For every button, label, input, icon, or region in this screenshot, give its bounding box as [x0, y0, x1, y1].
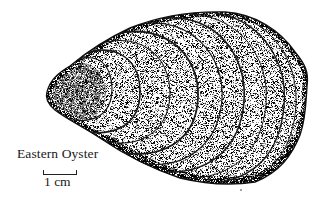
figure-caption: Eastern Oyster [17, 146, 98, 162]
scale-bar-label: 1 cm [44, 174, 71, 190]
scale-bar-tick-right [76, 170, 77, 175]
figure-canvas: Eastern Oyster 1 cm [0, 0, 329, 202]
stray-dot [240, 189, 242, 191]
